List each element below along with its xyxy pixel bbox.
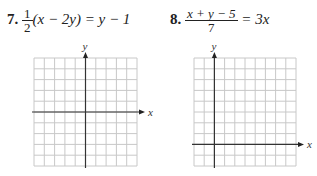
y-axis-arrow-icon	[212, 52, 217, 58]
x-axis-label: x	[147, 106, 153, 118]
x-axis-arrow-icon	[139, 110, 145, 115]
y-axis-label: y	[82, 40, 88, 52]
y-axis-arrow-icon	[83, 52, 88, 58]
x-axis-label: x	[306, 138, 312, 150]
y-axis-label: y	[210, 40, 216, 52]
x-axis-arrow-icon	[298, 142, 304, 147]
graphs-canvas: xyxy	[0, 0, 317, 176]
